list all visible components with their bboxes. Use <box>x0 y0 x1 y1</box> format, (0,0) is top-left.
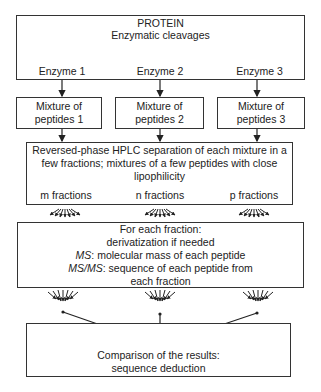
msms-text: : sequence of each peptide from <box>103 262 253 274</box>
msms-line: MS/MS: sequence of each peptide from <box>17 262 304 275</box>
mixture-2-line1: Mixture of <box>115 100 204 113</box>
ms-line: MS: molecular mass of each peptide <box>17 249 304 262</box>
msms-label: MS/MS <box>68 262 102 274</box>
enzyme-1-label: Enzyme 1 <box>22 65 102 78</box>
mixture-3-line1: Mixture of <box>217 100 305 113</box>
ms-text: : molecular mass of each peptide <box>91 249 245 261</box>
hplc-line3: lipophilicity <box>26 170 293 183</box>
hplc-line1: Reversed-phase HPLC separation of each m… <box>26 144 293 157</box>
enzyme-2-label: Enzyme 2 <box>120 65 200 78</box>
mixture-3-line2: peptides 3 <box>217 113 305 126</box>
m-fractions-label: m fractions <box>30 189 102 202</box>
ms-label: MS <box>76 249 92 261</box>
fraction-line1: For each fraction: <box>17 223 304 236</box>
mixture-2-line2: peptides 2 <box>115 113 204 126</box>
enzymatic-cleavages-label: Enzymatic cleavages <box>16 29 305 42</box>
enzyme-3-label: Enzyme 3 <box>217 65 302 78</box>
mixture-1-line2: peptides 1 <box>16 113 102 126</box>
p-fractions-label: p fractions <box>218 189 290 202</box>
fraction-line5: each fraction <box>17 275 304 288</box>
result-line2: sequence deduction <box>26 362 291 375</box>
fraction-line2: derivatization if needed <box>17 236 304 249</box>
protein-label: PROTEIN <box>16 17 305 30</box>
n-fractions-label: n fractions <box>124 189 196 202</box>
result-line1: Comparison of the results: <box>26 349 291 362</box>
hplc-line2: few fractions; mixtures of a few peptide… <box>26 157 293 170</box>
mixture-1-line1: Mixture of <box>16 100 102 113</box>
